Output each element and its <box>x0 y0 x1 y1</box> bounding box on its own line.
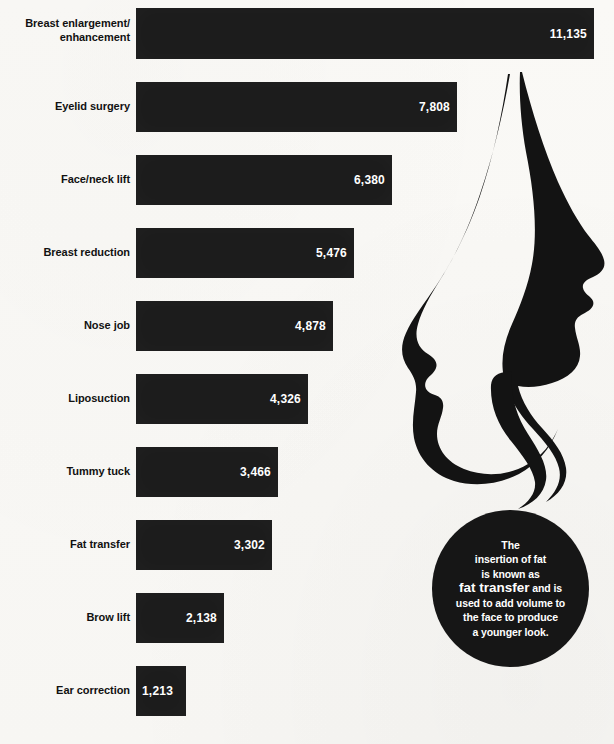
fact-line-5: used to add volume to <box>456 597 565 609</box>
bar-value: 3,302 <box>234 538 265 552</box>
bar-label-line2: enhancement <box>60 31 130 43</box>
bar-track: 7,808 <box>136 82 457 132</box>
fact-line-4-rest: and is <box>529 582 562 594</box>
bar-fill[interactable]: 2,138 <box>136 593 224 643</box>
fact-line-2: insertion of fat <box>475 553 546 565</box>
bar-track: 5,476 <box>136 228 354 278</box>
fact-bubble: The insertion of fat is known as fat tra… <box>432 510 589 667</box>
bar-fill[interactable]: 7,808 <box>136 82 457 132</box>
bar-fill[interactable]: 11,135 <box>136 8 594 59</box>
bar-track: 4,878 <box>136 301 333 351</box>
bar-fill[interactable]: 3,466 <box>136 447 278 497</box>
fact-line-6: the face to produce <box>463 611 558 623</box>
bar-label-line1: Eyelid surgery <box>55 100 130 112</box>
bar-value: 4,326 <box>270 392 301 406</box>
bar-label-line1: Ear correction <box>56 684 130 696</box>
bar-track: 3,466 <box>136 447 278 497</box>
bar-value: 7,808 <box>419 100 450 114</box>
bar-value: 3,466 <box>240 465 271 479</box>
bar-fill[interactable]: 4,878 <box>136 301 333 351</box>
fact-bubble-text: The insertion of fat is known as fat tra… <box>432 538 589 640</box>
bar-label: Breast enlargement/ enhancement <box>0 17 130 44</box>
bar-label-line1: Breast enlargement/ <box>25 17 130 29</box>
bar-fill[interactable]: 1,213 <box>136 666 186 716</box>
bar-value: 2,138 <box>186 611 217 625</box>
bar-value: 4,878 <box>295 319 326 333</box>
fact-line-4-emphasis: fat transfer <box>459 580 530 595</box>
bar-value: 6,380 <box>354 173 385 187</box>
fact-line-1: The <box>501 539 519 551</box>
bar-track: 2,138 <box>136 593 224 643</box>
bar-label-line1: Fat transfer <box>70 538 130 550</box>
bar-label: Ear correction <box>0 684 130 698</box>
bar-label: Breast reduction <box>0 246 130 260</box>
bar-value: 5,476 <box>316 246 347 260</box>
bar-value: 1,213 <box>142 684 173 698</box>
bar-track: 3,302 <box>136 520 272 570</box>
fact-line-7: a younger look. <box>472 626 548 638</box>
bar-track: 11,135 <box>136 8 594 59</box>
bar-track: 1,213 <box>136 666 186 716</box>
bar-fill[interactable]: 4,326 <box>136 374 308 424</box>
bar-label: Face/neck lift <box>0 173 130 187</box>
bar-label: Liposuction <box>0 392 130 406</box>
bar-label-line1: Breast reduction <box>43 246 130 258</box>
bar-fill[interactable]: 6,380 <box>136 155 392 205</box>
bar-label-line1: Face/neck lift <box>61 173 130 185</box>
bar-track: 6,380 <box>136 155 392 205</box>
bar-label: Tummy tuck <box>0 465 130 479</box>
fact-line-3: is known as <box>481 568 539 580</box>
bar-label: Eyelid surgery <box>0 100 130 114</box>
infographic-poster: Breast enlargement/ enhancement 11,135 E… <box>0 0 614 744</box>
bar-fill[interactable]: 5,476 <box>136 228 354 278</box>
bar-label: Nose job <box>0 319 130 333</box>
bar-label: Fat transfer <box>0 538 130 552</box>
bar-label-line1: Brow lift <box>86 611 130 623</box>
bar-label-line1: Nose job <box>84 319 130 331</box>
bar-label: Brow lift <box>0 611 130 625</box>
bar-fill[interactable]: 3,302 <box>136 520 272 570</box>
bar-label-line1: Liposuction <box>68 392 130 404</box>
bar-value: 11,135 <box>550 27 587 41</box>
bar-track: 4,326 <box>136 374 308 424</box>
bar-label-line1: Tummy tuck <box>67 465 130 477</box>
